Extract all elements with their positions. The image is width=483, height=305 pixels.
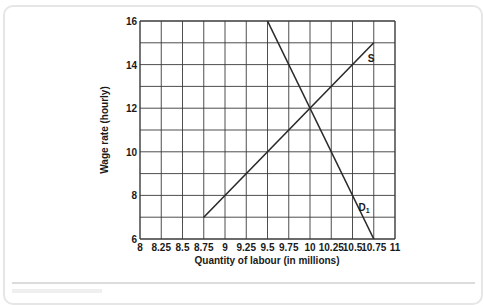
grid-lines — [140, 21, 395, 239]
y-tick-label: 6 — [131, 234, 137, 245]
y-tick-label: 10 — [126, 147, 138, 158]
x-tick-label: 11 — [390, 242, 401, 253]
x-tick-label: 9.25 — [237, 242, 257, 253]
x-tick-label: 8.75 — [194, 242, 214, 253]
y-axis-ticks: 6810121416 — [126, 16, 138, 245]
x-tick-label: 8.25 — [152, 242, 172, 253]
x-tick-label: 8 — [137, 242, 143, 253]
y-tick-label: 14 — [126, 60, 138, 71]
y-tick-label: 16 — [126, 16, 138, 27]
x-tick-label: 10.5 — [343, 242, 363, 253]
x-axis-label: Quantity of labour (in millions) — [195, 255, 340, 266]
x-tick-label: 9.5 — [261, 242, 275, 253]
x-tick-label: 10 — [304, 242, 316, 253]
x-tick-label: 10.75 — [361, 242, 386, 253]
supply-curve-label: S — [368, 53, 375, 64]
caption-cropped — [12, 289, 102, 293]
demand-curve-label: D1 — [358, 202, 369, 214]
footer-divider — [12, 282, 475, 284]
x-axis-ticks: 88.258.58.7599.259.59.751010.2510.510.75… — [137, 242, 401, 253]
y-tick-label: 12 — [126, 103, 138, 114]
x-tick-label: 9.75 — [279, 242, 299, 253]
x-tick-label: 8.5 — [176, 242, 190, 253]
y-tick-label: 8 — [131, 190, 137, 201]
x-tick-label: 9 — [222, 242, 228, 253]
y-axis-label: Wage rate (hourly) — [99, 86, 110, 173]
x-tick-label: 10.25 — [319, 242, 344, 253]
